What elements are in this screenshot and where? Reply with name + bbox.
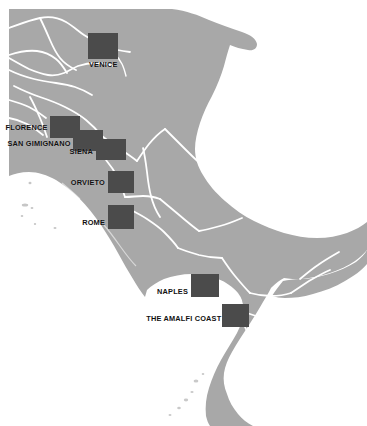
map-graphic	[0, 0, 367, 426]
marker-box-rome[interactable]	[108, 205, 134, 229]
marker-label-rome: ROME	[73, 218, 105, 227]
italy-destinations-map: VENICE FLORENCE SAN GIMIGNANO SIENA ORVI…	[0, 0, 367, 426]
marker-box-orvieto[interactable]	[108, 171, 134, 193]
marker-label-siena: SIENA	[65, 147, 93, 156]
marker-label-orvieto: ORVIETO	[64, 178, 105, 187]
marker-label-venice: VENICE	[89, 60, 118, 69]
marker-label-florence: FLORENCE	[6, 123, 47, 132]
marker-box-amalfi-coast[interactable]	[222, 304, 249, 327]
marker-box-naples[interactable]	[191, 274, 219, 297]
marker-label-naples: NAPLES	[151, 287, 188, 296]
marker-label-san-gimignano: SAN GIMIGNANO	[7, 139, 70, 148]
marker-label-amalfi-coast: THE AMALFI COAST	[146, 314, 219, 323]
marker-box-siena[interactable]	[96, 139, 126, 160]
marker-box-venice[interactable]	[88, 33, 118, 59]
